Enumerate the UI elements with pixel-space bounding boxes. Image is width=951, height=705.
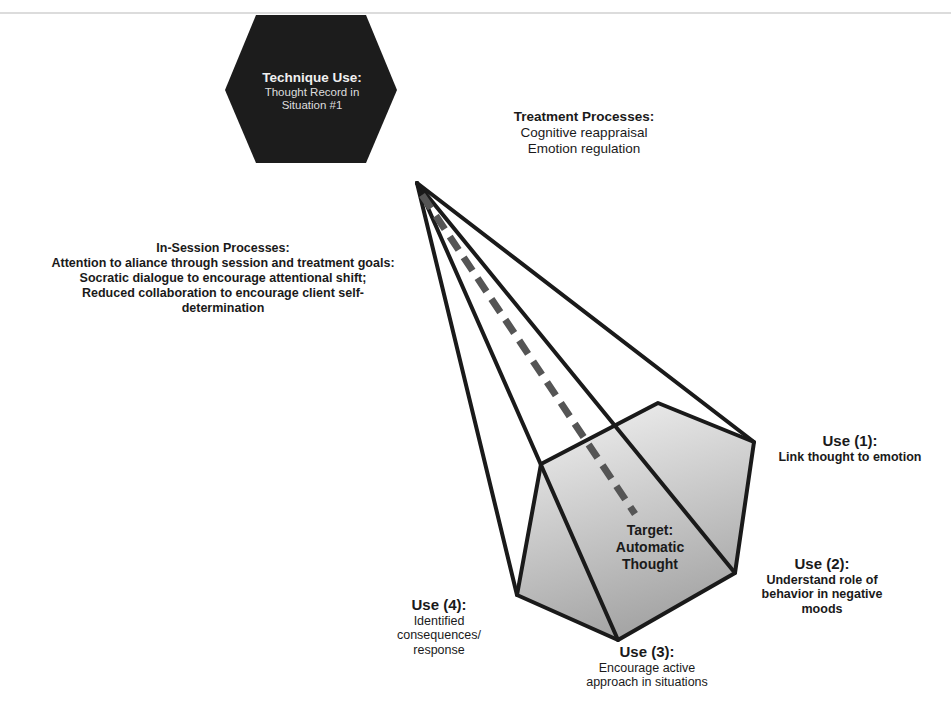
technique-title: Technique Use:: [226, 70, 398, 86]
technique-label: Technique Use: Thought Record in Situati…: [226, 70, 398, 113]
target-line: Target:: [610, 522, 690, 539]
target-line: Thought: [610, 556, 690, 573]
in-session-line: Socratic dialogue to encourage attention…: [28, 271, 418, 286]
use-4-label: Use (4): Identified consequences/ respon…: [384, 596, 494, 658]
use-3-label: Use (3): Encourage active approach in si…: [572, 643, 722, 690]
in-session-processes-label: In-Session Processes: Attention to alian…: [28, 241, 418, 316]
in-session-line: determination: [28, 301, 418, 316]
treatment-process-item: Cognitive reappraisal: [494, 125, 674, 141]
in-session-line: Reduced collaboration to encourage clien…: [28, 286, 418, 301]
use-line: Link thought to emotion: [770, 450, 930, 465]
use-line: consequences/: [384, 628, 494, 643]
treatment-processes-label: Treatment Processes: Cognitive reapprais…: [494, 109, 674, 157]
use-line: Identified: [384, 614, 494, 629]
use-line: Understand role of: [752, 573, 892, 588]
treatment-process-item: Emotion regulation: [494, 141, 674, 157]
use-title: Use (2):: [752, 555, 892, 573]
target-label: Target: Automatic Thought: [610, 522, 690, 573]
treatment-processes-title: Treatment Processes:: [494, 109, 674, 125]
use-title: Use (4):: [384, 596, 494, 614]
in-session-line: Attention to aliance through session and…: [28, 256, 418, 271]
in-session-title: In-Session Processes:: [28, 241, 418, 256]
technique-line: Situation #1: [226, 99, 398, 113]
use-line: response: [384, 643, 494, 658]
target-line: Automatic: [610, 539, 690, 556]
technique-line: Thought Record in: [226, 86, 398, 100]
use-title: Use (3):: [572, 643, 722, 661]
dashed-axis-line: [422, 195, 635, 514]
use-line: Encourage active: [572, 661, 722, 676]
use-2-label: Use (2): Understand role of behavior in …: [752, 555, 892, 617]
use-line: approach in situations: [572, 675, 722, 690]
use-line: behavior in negative: [752, 587, 892, 602]
use-1-label: Use (1): Link thought to emotion: [770, 432, 930, 464]
use-line: moods: [752, 602, 892, 617]
use-title: Use (1):: [770, 432, 930, 450]
